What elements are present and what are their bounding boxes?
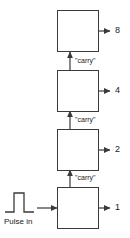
carry-label-lower-middle: "carry" [75,174,96,181]
pulse-waveform-icon [5,193,34,212]
stage-box-1[interactable] [57,187,99,229]
output-label-8: 8 [115,26,120,35]
stage-box-8[interactable] [57,10,99,52]
pulse-in-label: Pulse in [4,218,32,226]
carry-label-top: "carry" [75,57,96,64]
output-label-4: 4 [115,86,120,95]
output-label-1: 1 [115,203,120,212]
stage-box-4[interactable] [57,70,99,112]
stage-box-2[interactable] [57,129,99,171]
counter-diagram: 8 4 2 1 "carry" "carry" "carry" Pulse in [0,0,130,238]
carry-label-upper-middle: "carry" [75,116,96,123]
output-label-2: 2 [115,145,120,154]
